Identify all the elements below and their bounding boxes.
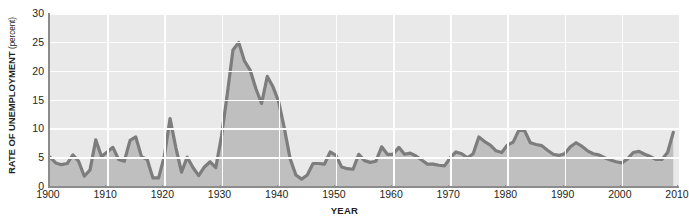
y-tick-label: 25 bbox=[20, 37, 44, 48]
x-axis-title: YEAR bbox=[0, 205, 689, 216]
x-tick-label: 1990 bbox=[551, 188, 574, 202]
gridline-vertical bbox=[507, 13, 509, 186]
y-axis-unit-text: (percent) bbox=[8, 17, 17, 49]
x-tick-label: 1900 bbox=[36, 188, 59, 202]
x-tick-mark bbox=[391, 185, 392, 188]
plot-area bbox=[48, 13, 679, 186]
gridline-vertical bbox=[336, 13, 338, 186]
gridline-horizontal bbox=[50, 157, 679, 159]
gridline-vertical bbox=[164, 13, 166, 186]
x-tick-mark bbox=[48, 185, 49, 188]
x-tick-label: 2000 bbox=[608, 188, 631, 202]
x-tick-mark bbox=[620, 185, 621, 188]
x-tick-mark bbox=[334, 185, 335, 188]
x-tick-label: 1960 bbox=[379, 188, 402, 202]
y-tick-label: 10 bbox=[20, 123, 44, 134]
x-tick-label: 1980 bbox=[494, 188, 517, 202]
gridline-horizontal bbox=[50, 13, 679, 15]
x-tick-label: 1910 bbox=[93, 188, 116, 202]
gridline-vertical bbox=[393, 13, 395, 186]
y-tick-label: 30 bbox=[20, 8, 44, 19]
x-tick-mark bbox=[105, 185, 106, 188]
x-tick-mark bbox=[220, 185, 221, 188]
unemployment-area-fill bbox=[50, 42, 673, 186]
unemployment-rate-chart: RATE OF UNEMPLOYMENT (percent) 051015202… bbox=[0, 0, 689, 224]
x-axis-tick-labels: 1900191019201930194019501960197019801990… bbox=[0, 188, 689, 204]
x-tick-mark bbox=[677, 185, 678, 188]
gridline-vertical bbox=[565, 13, 567, 186]
x-tick-mark bbox=[563, 185, 564, 188]
gridline-vertical bbox=[279, 13, 281, 186]
gridline-vertical bbox=[622, 13, 624, 186]
x-tick-label: 1940 bbox=[265, 188, 288, 202]
gridline-horizontal bbox=[50, 71, 679, 73]
x-tick-label: 1950 bbox=[322, 188, 345, 202]
x-tick-mark bbox=[448, 185, 449, 188]
gridline-vertical bbox=[107, 13, 109, 186]
y-tick-label: 20 bbox=[20, 65, 44, 76]
gridline-vertical bbox=[222, 13, 224, 186]
x-tick-label: 2010 bbox=[665, 188, 688, 202]
x-tick-mark bbox=[162, 185, 163, 188]
x-tick-mark bbox=[505, 185, 506, 188]
x-tick-mark bbox=[277, 185, 278, 188]
x-tick-label: 1930 bbox=[208, 188, 231, 202]
x-tick-label: 1920 bbox=[151, 188, 174, 202]
plot-inner bbox=[50, 13, 679, 186]
y-tick-label: 5 bbox=[20, 152, 44, 163]
y-axis-title-text: RATE OF UNEMPLOYMENT bbox=[6, 51, 17, 173]
gridline-horizontal bbox=[50, 128, 679, 130]
gridline-horizontal bbox=[50, 100, 679, 102]
y-tick-label: 15 bbox=[20, 94, 44, 105]
gridline-vertical bbox=[450, 13, 452, 186]
gridline-horizontal bbox=[50, 42, 679, 44]
x-tick-label: 1970 bbox=[437, 188, 460, 202]
